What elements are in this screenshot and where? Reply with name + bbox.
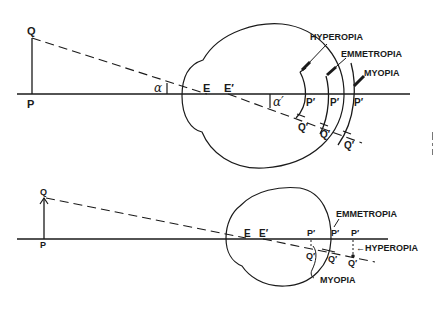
bottom-label-P-prime-myopia: P′ (307, 228, 315, 238)
bottom-incident-ray (46, 198, 246, 238)
top-incident-ray (32, 38, 207, 94)
top-diagram: Q P α E E′ α′ P′ P′ P′ Q′ Q′ Q′ HYPEROPI… (17, 24, 410, 168)
top-label-alpha: α (154, 81, 162, 95)
top-label-Q-prime-emmetropia: Q′ (320, 129, 331, 140)
top-label-hyperopia: HYPEROPIA (310, 32, 364, 42)
top-label-Q-prime-myopia: Q′ (344, 140, 355, 151)
top-label-emmetropia: EMMETROPIA (341, 49, 403, 59)
top-label-E-prime: E′ (224, 82, 234, 94)
bottom-label-P-prime-emmetropia: P′ (331, 228, 339, 238)
bottom-label-Q-prime-hyperopia: Q′ (348, 258, 357, 268)
top-label-P-prime-hyperopia: P′ (306, 97, 316, 108)
top-label-P: P (27, 98, 34, 110)
bottom-diagram: Q P E E′ P′ P′ P′ Q′ Q′ Q′ EMMETROPIA ←H… (17, 187, 419, 286)
top-myopia-arrowhead (354, 76, 364, 86)
top-emmetropia-arrowhead (327, 67, 336, 75)
top-eye-outline (182, 24, 344, 168)
bottom-label-Q-prime-myopia: Q′ (306, 251, 315, 261)
bottom-label-Q: Q (40, 187, 47, 197)
top-label-myopia: MYOPIA (364, 68, 400, 78)
bottom-label-E: E (244, 228, 251, 239)
top-label-Q: Q (27, 25, 36, 37)
bottom-emmetropia-pointer (334, 219, 339, 227)
top-hyperopia-retina (296, 72, 306, 118)
top-label-alpha-prime: α′ (273, 95, 284, 109)
bottom-label-Q-prime-emmetropia: Q′ (328, 254, 337, 264)
refraction-diagram: Q P α E E′ α′ P′ P′ P′ Q′ Q′ Q′ HYPEROPI… (0, 0, 433, 309)
top-label-Q-prime-hyperopia: Q′ (298, 122, 309, 133)
top-refracted-ray (228, 94, 362, 143)
top-label-P-prime-emmetropia: P′ (330, 97, 340, 108)
bottom-label-P: P (40, 240, 46, 250)
bottom-label-E-prime: E′ (259, 228, 269, 239)
bottom-label-emmetropia: EMMETROPIA (336, 209, 398, 219)
bottom-label-P-prime-hyperopia: P′ (351, 228, 359, 238)
top-label-P-prime-myopia: P′ (354, 97, 364, 108)
bottom-label-hyperopia: ←HYPEROPIA (356, 243, 419, 253)
top-label-E: E (203, 82, 210, 94)
top-hyperopia-arrowhead (302, 62, 310, 70)
bottom-label-myopia: MYOPIA (320, 275, 356, 285)
